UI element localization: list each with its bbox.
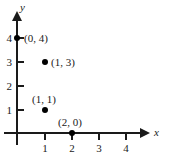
y-axis-label: y [20,2,25,13]
data-point-label: (1, 3) [51,57,75,68]
data-point-label: (2, 0) [58,117,82,128]
x-axis-label: x [154,127,159,138]
x-axis-tick-label: 4 [119,143,133,154]
y-axis-tick [18,109,24,111]
x-axis-arrow-icon [140,128,150,138]
data-point [14,35,20,41]
x-axis-tick-label: 3 [92,143,106,154]
y-axis-tick [18,61,24,63]
data-point [42,59,48,65]
data-point-label: (1, 1) [32,94,56,105]
x-axis-tick [44,134,46,140]
y-axis-tick-label: 2 [2,81,12,92]
x-axis-tick [125,134,127,140]
y-axis-tick-label: 1 [2,105,12,116]
data-point-label: (0, 4) [24,33,48,44]
data-point [69,130,75,136]
scatter-plot-figure: y x 4 3 2 1 1 2 3 4 (0, 4) (1, 3) (1, 1)… [0,0,169,165]
data-point [42,107,48,113]
y-axis-tick [18,85,24,87]
x-axis-tick [98,134,100,140]
x-axis-tick-label: 1 [38,143,52,154]
x-axis-tick-label: 2 [65,143,79,154]
y-axis-tick-label: 3 [2,57,12,68]
y-axis-tick-label: 4 [2,33,12,44]
